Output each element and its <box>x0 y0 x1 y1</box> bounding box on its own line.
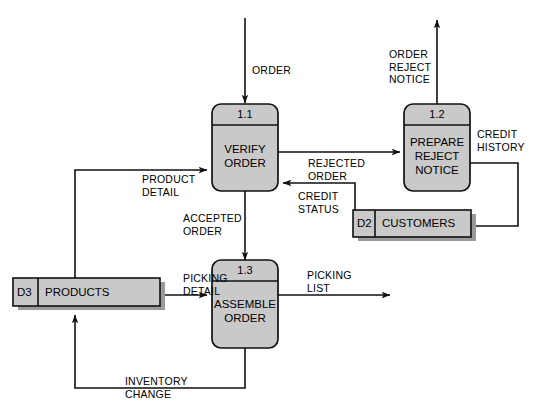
flow-order-reject-notice-line3: NOTICE <box>389 73 430 85</box>
flow-inventory-change-label: INVENTORYCHANGE <box>125 375 188 400</box>
diagram-canvas <box>0 0 533 413</box>
flow-order-label: ORDER <box>252 64 291 77</box>
store-d3-name: PRODUCTS <box>45 286 110 298</box>
flow-credit-status-line1: CREDIT <box>298 190 338 202</box>
data-flow-diagram: 1.1 VERIFYORDER 1.2 PREPAREREJECTNOTICE … <box>0 0 533 413</box>
process-1-1-name: VERIFYORDER <box>212 142 278 170</box>
process-1-3-name-line1: ASSEMBLE <box>214 298 276 310</box>
flow-product-detail-label: PRODUCTDETAIL <box>142 173 195 198</box>
process-1-2-name: PREPAREREJECTNOTICE <box>404 135 470 177</box>
process-1-2-name-line3: NOTICE <box>415 164 458 176</box>
flow-picking-detail-line1: PICKING <box>183 272 228 284</box>
flow-order-reject-notice-label: ORDERREJECTNOTICE <box>389 48 431 86</box>
flow-accepted-order-line2: ORDER <box>183 225 222 237</box>
process-1-3-name-line2: ORDER <box>224 312 266 324</box>
process-1-1-name-line1: VERIFY <box>224 143 266 155</box>
flow-accepted-order-line1: ACCEPTED <box>183 212 242 224</box>
flow-rejected-order-line1: REJECTED <box>308 157 365 169</box>
process-1-1-name-line2: ORDER <box>224 157 266 169</box>
flow-picking-list-line2: LIST <box>307 282 330 294</box>
flow-rejected-order-line2: ORDER <box>308 170 347 182</box>
flow-picking-detail-line2: DETAIL <box>183 285 220 297</box>
flow-product-detail-line2: DETAIL <box>142 186 179 198</box>
flow-order-reject-notice-line1: ORDER <box>389 48 428 60</box>
flow-credit-history-line2: HISTORY <box>477 141 525 153</box>
store-d2-name: CUSTOMERS <box>382 217 455 229</box>
flow-inventory-change-line2: CHANGE <box>125 388 171 400</box>
process-1-1-number: 1.1 <box>212 108 278 120</box>
flow-picking-list-line1: PICKING <box>307 269 352 281</box>
store-d3-id: D3 <box>17 286 32 298</box>
process-1-2-name-line2: REJECT <box>415 150 460 162</box>
process-1-3-name: ASSEMBLEORDER <box>208 297 282 325</box>
flow-credit-status-line2: STATUS <box>298 203 339 215</box>
process-1-2-number: 1.2 <box>404 108 470 120</box>
process-1-2-name-line1: PREPARE <box>410 136 464 148</box>
store-d2-id: D2 <box>357 217 372 229</box>
flow-rejected-order-label: REJECTEDORDER <box>308 157 365 182</box>
flow-accepted-order-label: ACCEPTEDORDER <box>183 212 242 237</box>
flow-picking-detail-label: PICKINGDETAIL <box>183 272 228 297</box>
flow-inventory-change-line1: INVENTORY <box>125 375 188 387</box>
flow-picking-list-label: PICKINGLIST <box>307 269 352 294</box>
flow-credit-history-label: CREDITHISTORY <box>477 128 525 153</box>
flow-product-detail-line1: PRODUCT <box>142 173 195 185</box>
flow-order-reject-notice-line2: REJECT <box>389 61 431 73</box>
flow-credit-status-label: CREDITSTATUS <box>298 190 339 215</box>
flow-credit-history-line1: CREDIT <box>477 128 517 140</box>
